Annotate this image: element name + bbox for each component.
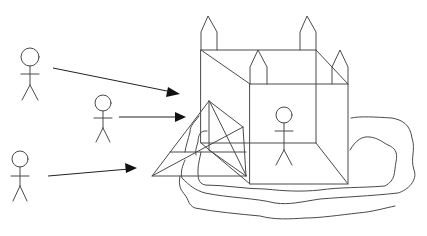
stick-figure-left-top <box>21 48 39 100</box>
castle-back-box <box>201 50 316 143</box>
tower-front-right <box>332 50 348 84</box>
arrow-middle <box>119 112 186 122</box>
castle-front-box <box>250 84 348 184</box>
arrow-bottom <box>48 163 137 176</box>
stick-figure-left-bottom <box>11 151 29 201</box>
sketch-canvas <box>0 0 427 236</box>
tower-front-left <box>250 50 267 84</box>
arrow-top <box>53 68 180 97</box>
moat-outline <box>179 117 415 219</box>
stick-figure-middle <box>94 95 112 142</box>
stick-figure-inside-castle <box>275 107 293 165</box>
tower-back-right <box>300 16 316 50</box>
tower-back-left <box>201 16 217 50</box>
castle-depth-edges <box>201 50 348 184</box>
castle-wedge <box>152 101 246 176</box>
